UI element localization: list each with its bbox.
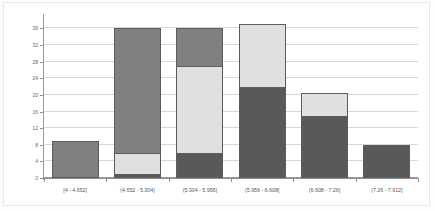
- x-axis-tick-mark: [418, 178, 419, 182]
- x-axis-tick-mark: [44, 178, 45, 182]
- bar-stack[interactable]: [114, 28, 161, 178]
- bar-segment-medium[interactable]: [114, 28, 161, 153]
- x-axis-tick-mark: [169, 178, 170, 182]
- y-axis-tick-labels: 04812162024283236: [0, 0, 38, 211]
- bar-stack[interactable]: [363, 145, 410, 178]
- bar-segment-dark[interactable]: [176, 153, 223, 178]
- y-axis-tick-label: 20: [32, 92, 38, 98]
- bar-segment-light[interactable]: [176, 66, 223, 153]
- gridline: [44, 127, 418, 128]
- bar-stack[interactable]: [52, 141, 99, 178]
- y-axis-tick-label: 28: [32, 59, 38, 65]
- y-axis-tick-label: 32: [32, 42, 38, 48]
- gridline: [44, 94, 418, 95]
- gridline: [44, 27, 418, 28]
- bar-segment-dark[interactable]: [363, 145, 410, 178]
- y-axis-tick-label: 12: [32, 125, 38, 131]
- x-axis-tick-mark: [231, 178, 232, 182]
- gridline: [44, 111, 418, 112]
- x-axis-tick-label: (5.956 - 6.608]: [245, 187, 279, 193]
- y-axis-tick-label: 8: [35, 142, 38, 148]
- bar-segment-medium[interactable]: [52, 141, 99, 178]
- y-axis-tick-label: 16: [32, 109, 38, 115]
- bar-segment-medium[interactable]: [176, 28, 223, 65]
- y-axis-tick-label: 4: [35, 158, 38, 164]
- bar-segment-dark[interactable]: [301, 116, 348, 178]
- gridline: [44, 160, 418, 161]
- gridline: [44, 77, 418, 78]
- x-axis-tick-mark: [293, 178, 294, 182]
- x-axis-tick-label: (6.608 - 7.26]: [309, 187, 340, 193]
- gridline: [44, 144, 418, 145]
- x-axis-tick-label: (4.652 - 5.304]: [120, 187, 154, 193]
- bar-segment-light[interactable]: [301, 93, 348, 116]
- gridline: [44, 61, 418, 62]
- x-axis-tick-label: [4 - 4.652]: [63, 187, 87, 193]
- bar-segment-dark[interactable]: [239, 87, 286, 178]
- bar-stack[interactable]: [239, 24, 286, 178]
- bar-stack[interactable]: [301, 93, 348, 178]
- y-axis-tick-label: 0: [35, 175, 38, 181]
- gridline: [44, 44, 418, 45]
- bar-stack[interactable]: [176, 28, 223, 178]
- x-axis-tick-mark: [356, 178, 357, 182]
- x-axis-tick-mark: [106, 178, 107, 182]
- x-axis-tick-label: (5.304 - 5.956]: [183, 187, 217, 193]
- plot-area: [44, 16, 418, 178]
- y-axis-tick-label: 36: [32, 25, 38, 31]
- y-axis-tick-label: 24: [32, 75, 38, 81]
- bar-segment-light[interactable]: [239, 24, 286, 86]
- chart-container: 04812162024283236 [4 - 4.652](4.652 - 5.…: [0, 0, 435, 211]
- x-axis-tick-label: (7.26 - 7.912]: [371, 187, 402, 193]
- bar-segment-light[interactable]: [114, 153, 161, 174]
